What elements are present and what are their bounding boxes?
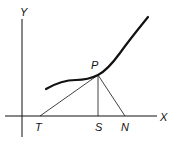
diagram-canvas: Y X P T S N	[0, 0, 173, 144]
point-label-N: N	[121, 121, 129, 133]
y-axis-label: Y	[20, 6, 28, 18]
point-label-P: P	[91, 59, 99, 71]
x-axis-label: X	[159, 111, 168, 123]
curve	[46, 17, 148, 89]
point-label-S: S	[95, 121, 103, 133]
normal-line-PN	[98, 75, 125, 116]
point-label-T: T	[35, 121, 43, 133]
